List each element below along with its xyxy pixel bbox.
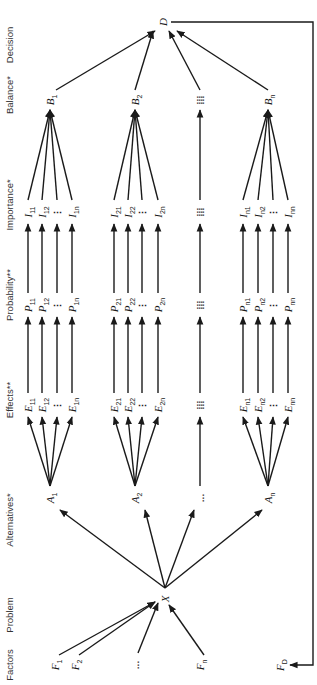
node-subscript: nn bbox=[289, 298, 296, 306]
probability-node-text: P21 bbox=[108, 298, 122, 314]
balance-node-text: ⁞⁞⁞ bbox=[196, 96, 206, 105]
node-subscript: nn bbox=[289, 398, 296, 406]
node-subscript: 21 bbox=[115, 298, 122, 306]
level-labels: FactorsProblemAlternatives*Effects**Prob… bbox=[4, 27, 15, 681]
probability-node: Pn1 bbox=[237, 298, 251, 314]
node-subscript: n bbox=[269, 95, 276, 99]
node-subscript: nn bbox=[289, 206, 296, 214]
factor-node: … bbox=[131, 661, 141, 670]
effect-node-text: ⋮ bbox=[53, 401, 63, 410]
balance-to-decision-edge bbox=[56, 31, 155, 90]
importance-node-text: In2 bbox=[252, 206, 266, 219]
factor-node-text: F2 bbox=[69, 660, 83, 672]
effect-node-text: E2n bbox=[152, 398, 166, 414]
importance-node-text: I12 bbox=[36, 206, 50, 219]
alternative-to-effect-edge bbox=[258, 417, 268, 486]
importance-to-balance-edge bbox=[258, 110, 268, 200]
probability-node: P11 bbox=[22, 298, 36, 313]
alternative-node-text: A1 bbox=[44, 493, 58, 505]
decision-flow-diagram: FactorsProblemAlternatives*Effects**Prob… bbox=[0, 0, 317, 685]
node-symbol: ⋮ bbox=[269, 208, 279, 217]
probability-node: ⋮ bbox=[53, 301, 63, 310]
node-symbol: ⋮ bbox=[269, 301, 279, 310]
importance-node-text: I11 bbox=[22, 206, 36, 218]
effect-node-text: ⋮ bbox=[269, 401, 279, 410]
importance-node-text: I22 bbox=[122, 206, 136, 219]
node-subscript: n1 bbox=[244, 298, 251, 306]
node-symbol: … bbox=[131, 661, 141, 670]
factor-node: Fn bbox=[194, 660, 208, 672]
node-subscript: 22 bbox=[129, 206, 136, 214]
level-label-probability: Probability** bbox=[4, 269, 15, 321]
importance-node-text: Inn bbox=[282, 206, 296, 219]
node-symbol: ⋮ bbox=[53, 301, 63, 310]
node-subscript: 1 bbox=[51, 493, 58, 497]
importance-node: ⋮ bbox=[138, 208, 148, 217]
effect-node: E1n bbox=[66, 398, 80, 414]
effect-node: ⋮ bbox=[53, 401, 63, 410]
alternative-to-effect-edge bbox=[243, 417, 268, 486]
effect-node-text: E12 bbox=[36, 398, 50, 414]
factor-node-text: Fn bbox=[194, 660, 208, 672]
effect-node: E12 bbox=[36, 398, 50, 414]
node-subscript: 11 bbox=[29, 298, 36, 305]
factor-node: F1 bbox=[49, 660, 63, 672]
node-subscript: n bbox=[201, 660, 208, 664]
probability-node-text: P22 bbox=[122, 298, 136, 314]
node-symbol: ⁞⁞⁞ bbox=[196, 208, 206, 217]
node-subscript: 2 bbox=[136, 95, 143, 99]
node-subscript: 21 bbox=[115, 398, 122, 406]
node-symbol: ⋮ bbox=[138, 208, 148, 217]
node-subscript: 12 bbox=[43, 298, 50, 306]
edges bbox=[28, 22, 313, 665]
node-symbol: ⋮ bbox=[53, 401, 63, 410]
alternative-node-text: … bbox=[196, 494, 206, 503]
probability-node-text: P2n bbox=[152, 298, 166, 314]
problem-to-alternative-edge bbox=[60, 510, 165, 588]
level-label-alternatives: Alternatives* bbox=[4, 493, 15, 547]
problem-node-text: X bbox=[159, 594, 171, 603]
effect-node: E11 bbox=[22, 398, 36, 413]
effect-node-text: Enn bbox=[282, 398, 296, 414]
node-subscript: 12 bbox=[43, 206, 50, 214]
importance-node-text: I2n bbox=[152, 206, 166, 219]
balance-node: ⁞⁞⁞ bbox=[196, 96, 206, 105]
probability-node: ⁞⁞⁞ bbox=[196, 301, 206, 310]
importance-node: I12 bbox=[36, 206, 50, 219]
effect-node-text: En1 bbox=[237, 398, 251, 414]
probability-node-text: P11 bbox=[22, 298, 36, 313]
node-symbol: X bbox=[159, 594, 171, 603]
probability-node: P1n bbox=[66, 298, 80, 314]
importance-node: I2n bbox=[152, 206, 166, 219]
alternative-node-text: An bbox=[262, 493, 276, 505]
effect-node: E2n bbox=[152, 398, 166, 414]
factor-node: F2 bbox=[69, 660, 83, 672]
effect-node-text: E22 bbox=[122, 398, 136, 414]
importance-node-text: ⁞⁞⁞ bbox=[196, 208, 206, 217]
importance-node-text: I1n bbox=[66, 206, 80, 219]
importance-node: I22 bbox=[122, 206, 136, 219]
effect-node-text: E1n bbox=[66, 398, 80, 414]
probability-node: Pnn bbox=[282, 298, 296, 314]
problem-node: X bbox=[159, 594, 171, 603]
node-symbol: ⋮ bbox=[53, 208, 63, 217]
node-subscript: n1 bbox=[244, 206, 251, 214]
node-subscript: 1n bbox=[73, 206, 80, 214]
node-symbol: ⋮ bbox=[138, 401, 148, 410]
feedback-node-text: FD bbox=[274, 659, 288, 672]
probability-node-text: P12 bbox=[36, 298, 50, 314]
importance-to-balance-edge bbox=[243, 110, 268, 200]
balance-node: Bn bbox=[262, 95, 276, 106]
node-subscript: n2 bbox=[259, 206, 266, 214]
importance-node-text: In1 bbox=[237, 206, 251, 219]
balance-to-decision-edge bbox=[177, 31, 268, 90]
node-subscript: 1n bbox=[73, 298, 80, 306]
factor-edge bbox=[169, 605, 204, 655]
balance-node: B1 bbox=[44, 95, 58, 106]
probability-node: ⋮ bbox=[269, 301, 279, 310]
level-label-factors: Factors bbox=[4, 649, 15, 681]
probability-node-text: Pn2 bbox=[252, 298, 266, 314]
probability-node-text: P1n bbox=[66, 298, 80, 314]
node-symbol: ⋮ bbox=[269, 401, 279, 410]
node-symbol: D bbox=[157, 18, 169, 27]
